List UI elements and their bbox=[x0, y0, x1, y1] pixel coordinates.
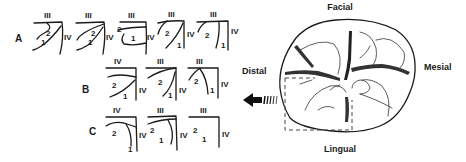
panel-b2-ridge-2 bbox=[148, 68, 176, 78]
panel-c2-label-2: 2 bbox=[150, 126, 155, 135]
panel-b1-label-2: 2 bbox=[112, 81, 117, 90]
panel-b3-ridge-1 bbox=[200, 69, 208, 94]
panel-b3: III 2 1 IV bbox=[188, 57, 229, 98]
panel-b2-label-1: 1 bbox=[168, 91, 173, 100]
panel-a1: III 2 1 IV bbox=[33, 11, 72, 54]
panel-a5-ridge-1 bbox=[216, 22, 219, 48]
panel-b2-label-2: 2 bbox=[158, 78, 163, 87]
panel-b3-top-label: III bbox=[196, 57, 203, 66]
panel-c3-top-label: III bbox=[200, 106, 207, 115]
panel-a5-label-2: 2 bbox=[205, 31, 210, 40]
panel-a3-top-label: III bbox=[128, 11, 135, 20]
panel-c3-side-label: IV bbox=[222, 130, 230, 139]
arrow-left-icon bbox=[243, 93, 277, 107]
panel-a4-label-2: 2 bbox=[165, 29, 170, 38]
panel-b3-side-label: IV bbox=[221, 80, 229, 89]
panel-c1: IV 2 1 IV bbox=[106, 106, 147, 154]
panel-a3: III 2 1 IV bbox=[117, 11, 155, 54]
panel-b1-label-1: 1 bbox=[123, 92, 128, 101]
row-label-a: A bbox=[15, 33, 22, 44]
panel-b3-label-1: 1 bbox=[210, 86, 215, 95]
panel-a5: III 2 1 IV bbox=[197, 10, 239, 50]
panel-c3: III 2 1 IV bbox=[189, 106, 230, 147]
panel-a2-side-label: IV bbox=[106, 33, 114, 42]
panel-a3-label-2: 2 bbox=[117, 25, 122, 34]
panel-a1-label-2: 2 bbox=[46, 29, 51, 38]
panel-a5-label-1: 1 bbox=[221, 41, 226, 50]
panel-c3-label-1: 1 bbox=[202, 135, 207, 144]
panel-a4-side-label: IV bbox=[187, 30, 195, 39]
panel-a5-side-label: IV bbox=[231, 27, 239, 36]
facial-label: Facial bbox=[327, 2, 353, 12]
panel-c2-side-label: IV bbox=[180, 131, 188, 140]
row-label-b: B bbox=[82, 84, 89, 95]
panel-c1-ridge-2 bbox=[106, 122, 136, 127]
panel-a4-label-1: 1 bbox=[177, 41, 182, 50]
panel-c2-label-1: 1 bbox=[159, 136, 164, 145]
panel-a4: III 2 1 IV bbox=[158, 10, 195, 50]
dental-diagram: A B C III 2 1 IV III 2 1 IV III 2 1 IV I… bbox=[0, 0, 466, 162]
panel-a5-top-label: III bbox=[210, 10, 217, 19]
panel-b3-label-2: 2 bbox=[194, 77, 199, 86]
panel-a3-label-1: 1 bbox=[131, 34, 136, 43]
panel-b1-side-label: IV bbox=[139, 86, 147, 95]
panel-c1-label-1: 1 bbox=[128, 145, 133, 154]
panel-a2-label-1: 1 bbox=[88, 38, 93, 47]
panel-c1-ridge-1 bbox=[126, 124, 131, 146]
panel-a2: III 2 1 IV bbox=[76, 11, 114, 54]
mesial-label: Mesial bbox=[424, 62, 452, 72]
panel-c1-label-2: 2 bbox=[112, 129, 117, 138]
central-fissure bbox=[285, 31, 410, 122]
panel-b1-top-label: IV bbox=[114, 57, 122, 66]
panel-c2-ridge-1 bbox=[168, 120, 172, 144]
panel-c2-top-label: III bbox=[157, 106, 164, 115]
panel-a1-label-1: 1 bbox=[41, 38, 46, 47]
panel-a3-side-label: IV bbox=[147, 33, 155, 42]
panel-c2-ridge-2 bbox=[148, 119, 176, 124]
row-label-c: C bbox=[89, 126, 96, 137]
panel-c1-side-label: IV bbox=[139, 131, 147, 140]
panel-c1-top-label: IV bbox=[113, 106, 121, 115]
panel-b2-side-label: IV bbox=[179, 86, 187, 95]
panel-c3-label-2: 2 bbox=[193, 126, 198, 135]
panel-a3-ridge-2 bbox=[118, 27, 146, 30]
panel-a2-label-2: 2 bbox=[91, 29, 96, 38]
lingual-label: Lingual bbox=[324, 144, 356, 154]
panel-a1-side-label: IV bbox=[64, 33, 72, 42]
panel-b1-ridge-2 bbox=[108, 75, 136, 77]
panel-a2-top-label: III bbox=[85, 11, 92, 20]
panel-a1-top-label: III bbox=[44, 11, 51, 20]
panel-c2: III 2 1 IV bbox=[148, 106, 188, 150]
panel-a4-top-label: III bbox=[168, 10, 175, 19]
distal-label: Distal bbox=[242, 66, 267, 76]
panel-b2-top-label: III bbox=[157, 57, 164, 66]
panel-b2: III 2 1 IV bbox=[146, 57, 187, 100]
panel-b1: IV 2 1 IV bbox=[106, 57, 147, 101]
